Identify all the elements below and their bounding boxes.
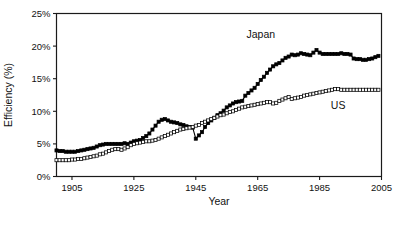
data-point-marker xyxy=(299,95,302,98)
data-point-marker xyxy=(256,82,259,85)
data-point-marker xyxy=(231,102,234,105)
data-point-marker xyxy=(340,88,343,91)
data-point-marker xyxy=(358,58,361,61)
data-point-marker xyxy=(80,149,83,152)
data-point-marker xyxy=(377,88,380,91)
data-point-marker xyxy=(346,88,349,91)
data-point-marker xyxy=(154,138,157,141)
data-point-marker xyxy=(262,75,265,78)
data-point-marker xyxy=(247,91,250,94)
data-point-marker xyxy=(142,140,145,143)
data-point-marker xyxy=(352,57,355,60)
x-axis-title: Year xyxy=(208,195,230,207)
data-point-marker xyxy=(250,89,253,92)
data-point-marker xyxy=(111,148,114,151)
data-point-marker xyxy=(114,142,117,145)
data-point-marker xyxy=(241,99,244,102)
data-point-marker xyxy=(343,88,346,91)
data-point-marker xyxy=(179,123,182,126)
data-point-marker xyxy=(225,112,228,115)
data-point-marker xyxy=(259,102,262,105)
data-point-marker xyxy=(340,52,343,55)
efficiency-line-chart: 0%5%10%15%20%25% 19051925194519651985200… xyxy=(0,0,401,225)
data-point-marker xyxy=(228,104,231,107)
x-tick-label: 1945 xyxy=(185,182,206,193)
data-point-marker xyxy=(371,57,374,60)
data-point-marker xyxy=(117,142,120,145)
data-point-marker xyxy=(111,142,114,145)
data-point-marker xyxy=(117,148,120,151)
data-point-marker xyxy=(139,141,142,144)
data-point-marker xyxy=(361,88,364,91)
data-point-marker xyxy=(74,150,77,153)
data-point-marker xyxy=(303,52,306,55)
data-point-marker xyxy=(309,93,312,96)
data-point-marker xyxy=(318,91,321,94)
data-point-marker xyxy=(61,159,64,162)
y-tick-label: 10% xyxy=(31,106,51,117)
data-point-marker xyxy=(163,118,166,121)
data-point-marker xyxy=(231,110,234,113)
data-point-marker xyxy=(293,54,296,57)
x-tick-label: 2005 xyxy=(371,182,392,193)
data-point-marker xyxy=(269,68,272,71)
y-tick-label: 25% xyxy=(31,8,51,19)
data-point-marker xyxy=(361,58,364,61)
data-point-marker xyxy=(145,140,148,143)
data-point-marker xyxy=(151,139,154,142)
data-point-marker xyxy=(126,146,129,149)
data-point-marker xyxy=(89,147,92,150)
data-point-marker xyxy=(191,125,194,128)
data-point-marker xyxy=(83,157,86,160)
data-point-marker xyxy=(238,107,241,110)
data-point-marker xyxy=(173,121,176,124)
data-point-marker xyxy=(145,135,148,138)
data-point-marker xyxy=(61,150,64,153)
data-point-marker xyxy=(95,154,98,157)
data-point-marker xyxy=(67,150,70,153)
data-point-marker xyxy=(70,158,73,161)
data-point-marker xyxy=(346,52,349,55)
data-point-marker xyxy=(101,152,104,155)
data-point-marker xyxy=(98,153,101,156)
x-tick-label: 1905 xyxy=(61,182,82,193)
data-point-marker xyxy=(166,133,169,136)
data-point-marker xyxy=(337,52,340,55)
y-axis-title: Efficiency (%) xyxy=(2,63,14,127)
data-point-marker xyxy=(176,121,179,124)
data-point-marker xyxy=(132,142,135,145)
data-point-marker xyxy=(262,101,265,104)
data-point-marker xyxy=(275,63,278,66)
data-point-marker xyxy=(216,115,219,118)
data-point-marker xyxy=(126,142,129,145)
data-point-marker xyxy=(321,90,324,93)
data-point-marker xyxy=(244,94,247,97)
y-tick-label: 15% xyxy=(31,73,51,84)
data-point-marker xyxy=(210,118,213,121)
data-point-marker xyxy=(256,103,259,106)
data-point-marker xyxy=(234,108,237,111)
data-point-marker xyxy=(179,128,182,131)
data-point-marker xyxy=(120,148,123,151)
data-point-marker xyxy=(334,52,337,55)
data-point-marker xyxy=(219,114,222,117)
data-point-marker xyxy=(299,52,302,55)
data-point-marker xyxy=(197,134,200,137)
y-tick-label: 5% xyxy=(37,138,51,149)
data-point-marker xyxy=(58,150,61,153)
data-point-marker xyxy=(176,129,179,132)
data-point-marker xyxy=(200,131,203,134)
data-point-marker xyxy=(278,62,281,65)
data-point-marker xyxy=(55,159,58,162)
data-point-marker xyxy=(77,150,80,153)
data-point-marker xyxy=(173,131,176,134)
data-point-marker xyxy=(287,95,290,98)
data-point-marker xyxy=(272,102,275,105)
data-point-marker xyxy=(290,53,293,56)
data-point-marker xyxy=(318,51,321,54)
data-point-marker xyxy=(358,88,361,91)
data-point-marker xyxy=(250,104,253,107)
data-point-marker xyxy=(222,109,225,112)
data-point-marker xyxy=(364,88,367,91)
data-point-marker xyxy=(123,142,126,145)
